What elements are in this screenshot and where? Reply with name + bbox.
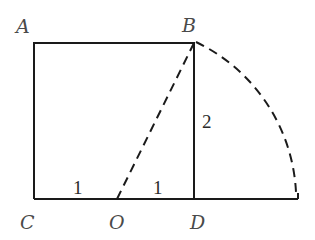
dashed-segment-ob <box>117 43 194 199</box>
label-point-b: B <box>181 14 196 36</box>
label-length-co: 1 <box>73 177 83 198</box>
label-length-od: 1 <box>153 177 163 198</box>
geometry-diagram: A B C O D 1 1 2 <box>0 0 315 240</box>
label-point-d: D <box>189 211 205 233</box>
label-point-o: O <box>109 211 125 233</box>
label-point-a: A <box>14 15 30 37</box>
label-length-bd: 2 <box>202 111 212 132</box>
label-point-c: C <box>20 211 35 233</box>
